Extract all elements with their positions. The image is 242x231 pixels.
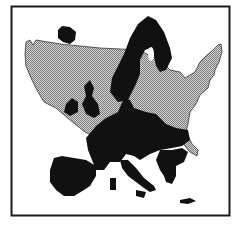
sardinia-shape — [110, 178, 116, 190]
map-canvas — [0, 0, 242, 231]
